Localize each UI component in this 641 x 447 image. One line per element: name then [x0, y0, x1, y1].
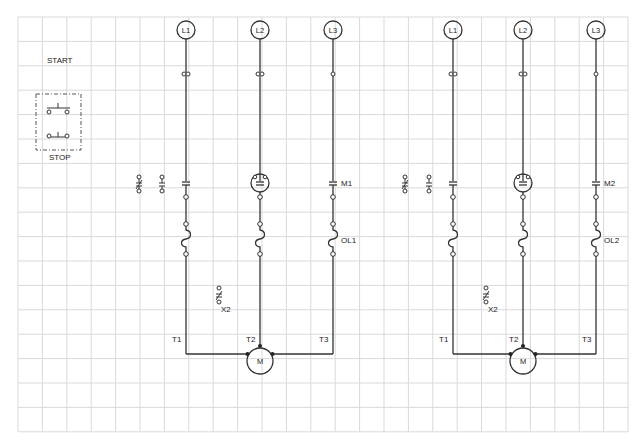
terminal-icon	[258, 252, 263, 257]
no-contact-icon	[426, 175, 432, 193]
stop-pushbutton-icon	[47, 132, 69, 138]
terminal-icon	[331, 252, 336, 257]
disconnect-icon	[453, 72, 457, 76]
grid-background	[18, 17, 628, 432]
terminal-label-t3: T3	[582, 335, 592, 344]
terminal-label-t2: T2	[509, 335, 519, 344]
terminal-icon	[184, 222, 189, 227]
x2-label: X2	[221, 305, 231, 314]
terminal-icon	[451, 222, 456, 227]
terminal-icon	[331, 222, 336, 227]
supply-label: L2	[256, 26, 264, 35]
motor-label: M	[520, 357, 526, 366]
motor-label: M	[257, 357, 263, 366]
overload-heater-icon	[592, 226, 601, 252]
disconnect-icon	[449, 72, 453, 76]
overload-heater-icon	[256, 226, 265, 252]
overload-heater-icon	[329, 226, 338, 252]
terminal-icon	[594, 252, 599, 257]
contactor-label: M1	[341, 179, 353, 188]
nc-contact-icon	[136, 175, 142, 193]
x2-label: X2	[488, 305, 498, 314]
ladder-diagram: START STOP L1L2L3M1OL1X2MT1T2T3 L1L2L3M2…	[0, 0, 641, 447]
terminal-icon	[594, 195, 599, 200]
supply-label: L2	[519, 26, 527, 35]
terminal-label-t2: T2	[246, 335, 256, 344]
supply-label: L1	[182, 26, 190, 35]
overload-label: OL2	[604, 236, 620, 245]
disconnect-icon	[260, 72, 264, 76]
terminal-icon	[521, 222, 526, 227]
terminal-icon	[521, 195, 526, 200]
disconnect-icon	[594, 72, 598, 76]
supply-label: L3	[329, 26, 337, 35]
disconnect-icon	[519, 72, 523, 76]
terminal-icon	[594, 222, 599, 227]
x2-contact-icon	[483, 286, 489, 304]
start-label: START	[47, 56, 73, 65]
terminal-icon	[258, 195, 263, 200]
phase-line-l2: L2	[514, 21, 532, 348]
terminal-icon	[521, 252, 526, 257]
terminal-icon	[451, 252, 456, 257]
terminal-label-t3: T3	[319, 335, 329, 344]
motor-circuit-1: L1L2L3M1OL1X2MT1T2T3	[136, 21, 357, 374]
disconnect-icon	[331, 72, 335, 76]
supply-label: L3	[592, 26, 600, 35]
terminal-label-t1: T1	[439, 335, 449, 344]
disconnect-icon	[182, 72, 186, 76]
terminal-icon	[451, 195, 456, 200]
x2-contact-icon	[216, 286, 222, 304]
overload-label: OL1	[341, 236, 357, 245]
supply-label: L1	[449, 26, 457, 35]
overload-heater-icon	[449, 226, 458, 252]
contactor-label: M2	[604, 179, 616, 188]
disconnect-icon	[186, 72, 190, 76]
disconnect-icon	[523, 72, 527, 76]
terminal-icon	[258, 222, 263, 227]
nc-contact-icon	[402, 175, 408, 193]
stop-label: STOP	[49, 153, 71, 162]
terminal-label-t1: T1	[172, 335, 182, 344]
phase-line-l2: L2	[251, 21, 269, 348]
terminal-icon	[184, 195, 189, 200]
disconnect-icon	[256, 72, 260, 76]
motor-circuit-2: L1L2L3M2OL2X2MT1T2T3	[402, 21, 620, 374]
overload-heater-icon	[519, 226, 528, 252]
terminal-icon	[331, 195, 336, 200]
terminal-icon	[184, 252, 189, 257]
